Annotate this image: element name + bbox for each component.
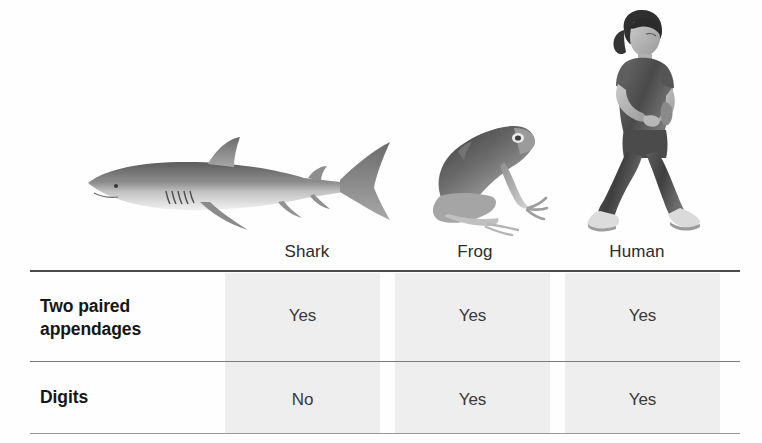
frog-illustration (418, 116, 558, 236)
cell-digits-shark: No (225, 389, 380, 411)
table-row: Digits No Yes Yes (30, 362, 740, 433)
column-header-frog: Frog (405, 241, 545, 263)
human-illustration (580, 6, 706, 236)
vertebrate-traits-figure: Shark Frog Human Two paired appendages Y… (0, 0, 762, 443)
cell-appendages-human: Yes (565, 305, 720, 327)
cell-digits-frog: Yes (395, 389, 550, 411)
shark-illustration (82, 136, 402, 236)
row-label-two-paired-appendages: Two paired appendages (40, 295, 220, 341)
table-rule-bottom (30, 433, 740, 434)
cell-digits-human: Yes (565, 389, 720, 411)
cell-appendages-frog: Yes (395, 305, 550, 327)
table-row: Two paired appendages Yes Yes Yes (30, 273, 740, 361)
column-header-shark: Shark (237, 241, 377, 263)
illustration-strip (0, 0, 762, 238)
cell-appendages-shark: Yes (225, 305, 380, 327)
row-label-digits: Digits (40, 386, 220, 409)
traits-table: Two paired appendages Yes Yes Yes Digits… (30, 270, 740, 435)
table-rule-top (30, 270, 740, 272)
column-header-human: Human (567, 241, 707, 263)
